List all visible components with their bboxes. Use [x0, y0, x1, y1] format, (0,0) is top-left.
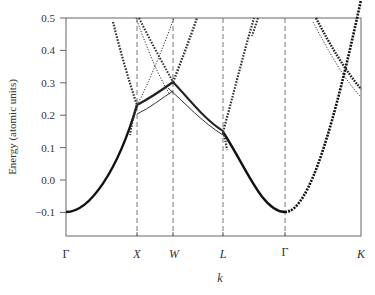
x-axis-ticks [137, 232, 285, 236]
band-second-w-l [168, 88, 223, 135]
band-dotted-l-up [223, 18, 254, 132]
band-structure-chart: 0.5 0.4 0.3 0.2 0.1 0.0 −0.1 Energy (ato… [0, 0, 375, 295]
band-lowest-w-l [173, 82, 223, 131]
k-point-w-label: W [169, 247, 180, 261]
k-point-x-label: X [132, 247, 141, 261]
k-point-k-label: K [356, 247, 366, 261]
x-axis-label: k [217, 271, 223, 285]
k-point-gamma2-label: Γ [282, 245, 289, 259]
y-tick-label: 0.4 [41, 44, 55, 56]
y-tick-label: 0.3 [41, 77, 55, 89]
band-dotted-gamma-x [113, 22, 137, 105]
band-lowest-gamma-x [66, 105, 137, 212]
band-dotted-x-w-upper-2 [136, 18, 170, 95]
plot-frame [66, 18, 361, 236]
y-tick-label: 0.0 [41, 174, 55, 186]
bands [66, 0, 361, 212]
x-tick-labels: Γ X W L Γ K [63, 245, 366, 261]
y-tick-label: −0.1 [35, 206, 55, 218]
k-point-l-label: L [219, 247, 227, 261]
band-dotted-x-w-upper-1 [139, 18, 173, 82]
y-tick-label: 0.5 [41, 12, 55, 24]
band-lowest-l-gamma [223, 132, 285, 212]
band-dotted-gamma-k-upper-1 [316, 18, 361, 89]
y-tick-labels: 0.5 0.4 0.3 0.2 0.1 0.0 −0.1 [35, 12, 55, 218]
y-tick-label: 0.2 [41, 109, 55, 121]
y-axis [60, 18, 66, 212]
band-dotted-x-right-up [137, 18, 174, 105]
band-dotted-w-up [173, 18, 197, 82]
y-axis-label: Energy (atomic units) [6, 79, 19, 175]
band-lowest-x-w [137, 82, 173, 105]
k-point-gamma-label: Γ [63, 247, 70, 261]
y-tick-label: 0.1 [41, 142, 55, 154]
